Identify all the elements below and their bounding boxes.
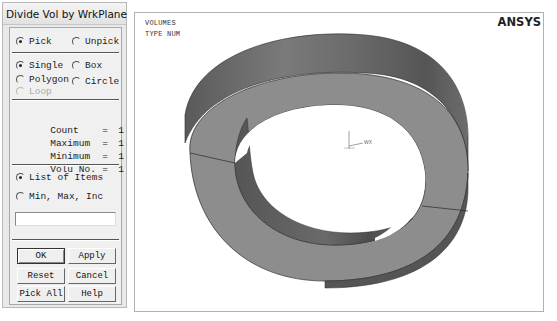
divider <box>12 239 119 241</box>
radio-label: Pick <box>29 36 52 47</box>
radio-label: Polygon <box>29 74 69 85</box>
radio-unselected-icon <box>16 87 25 96</box>
divide-vol-dialog: Divide Vol by WrkPlane Pick Unpick Singl… <box>2 2 127 308</box>
radio-unselected-icon <box>16 192 25 201</box>
reset-button[interactable]: Reset <box>17 268 65 284</box>
dialog-body: Pick Unpick Single Box Polygon Circle Lo… <box>9 27 122 305</box>
radio-single[interactable]: Single <box>16 59 63 71</box>
stat-value: 1 <box>118 164 124 175</box>
divider <box>12 164 119 166</box>
radio-unselected-icon <box>72 77 81 86</box>
radio-unpick[interactable]: Unpick <box>72 35 119 47</box>
radio-label: Single <box>29 60 63 71</box>
radio-unselected-icon <box>16 75 25 84</box>
radio-polygon[interactable]: Polygon <box>16 73 69 85</box>
dialog-title: Divide Vol by WrkPlane <box>3 3 126 25</box>
help-button[interactable]: Help <box>68 286 116 302</box>
item-entry-input[interactable] <box>15 212 116 226</box>
divider <box>12 99 119 101</box>
radio-unselected-icon <box>72 37 81 46</box>
radio-box[interactable]: Box <box>72 59 102 71</box>
graphics-viewport[interactable]: VOLUMES TYPE NUM ANSYS <box>134 12 544 312</box>
radio-unselected-icon <box>72 61 81 70</box>
radio-min-max-inc[interactable]: Min, Max, Inc <box>16 190 103 202</box>
wx-label: WX <box>364 139 373 145</box>
radio-label: Circle <box>85 76 119 87</box>
ok-button[interactable]: OK <box>17 248 65 264</box>
apply-button[interactable]: Apply <box>68 248 116 264</box>
radio-pick[interactable]: Pick <box>16 35 52 47</box>
divider <box>12 52 119 54</box>
ring-volume-model[interactable]: WX <box>135 13 545 313</box>
cancel-button[interactable]: Cancel <box>68 268 116 284</box>
pick-all-button[interactable]: Pick All <box>17 286 65 302</box>
radio-selected-icon <box>16 37 25 46</box>
radio-label: Box <box>85 60 102 71</box>
radio-selected-icon <box>16 61 25 70</box>
ring-top-face <box>190 73 468 281</box>
workplane-triad-icon: WX <box>344 131 373 149</box>
radio-list-of-items[interactable]: List of Items <box>16 171 103 183</box>
radio-loop: Loop <box>16 85 52 97</box>
radio-label: Loop <box>29 86 52 97</box>
radio-selected-icon <box>16 173 25 182</box>
radio-circle[interactable]: Circle <box>72 75 119 87</box>
radio-label: Unpick <box>85 36 119 47</box>
radio-label: List of Items <box>29 172 103 183</box>
radio-label: Min, Max, Inc <box>29 191 103 202</box>
